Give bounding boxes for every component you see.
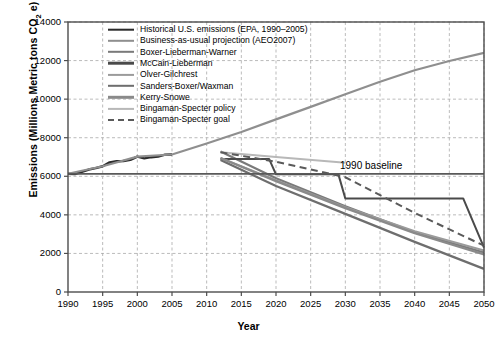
emissions-line-chart: [0, 0, 497, 340]
legend-label: Olver-Gilchrest: [140, 69, 197, 80]
y-tick-label: 10000: [10, 93, 61, 104]
legend-item: Business-as-usual projection (AEO2007): [108, 35, 295, 46]
y-tick-label: 0: [10, 286, 61, 297]
y-tick-label: 2000: [10, 247, 61, 258]
legend-item: McCain-Lieberman: [108, 58, 213, 69]
x-axis-title: Year: [0, 320, 497, 332]
y-tick-label: 4000: [10, 209, 61, 220]
series-line: [221, 158, 484, 251]
legend-label: Sanders-Boxer/Waxman: [140, 81, 233, 92]
x-tick-label: 2050: [464, 298, 497, 309]
y-axis-title-tail: e): [27, 2, 39, 15]
legend-swatch-icon: [108, 92, 134, 103]
legend-item: Bingaman-Specter policy: [108, 103, 236, 114]
series-line: [221, 159, 484, 248]
legend-item: Bingaman-Specter goal: [108, 114, 230, 125]
legend-label: Bingaman-Specter goal: [140, 114, 230, 125]
y-tick-label: 6000: [10, 170, 61, 181]
legend-item: Historical U.S. emissions (EPA, 1990–200…: [108, 24, 308, 35]
y-axis-title: Emissions (Millions Metric tons CO2 e): [27, 0, 42, 220]
y-tick-label: 14000: [10, 16, 61, 27]
legend-swatch-icon: [108, 114, 134, 125]
legend-label: Business-as-usual projection (AEO2007): [140, 35, 295, 46]
legend-swatch-icon: [108, 69, 134, 80]
legend-swatch-icon: [108, 24, 134, 35]
legend-label: Kerry-Snowe: [140, 92, 190, 103]
legend-label: McCain-Lieberman: [140, 58, 213, 69]
legend-item: Olver-Gilchrest: [108, 69, 197, 80]
legend-swatch-icon: [108, 103, 134, 114]
legend-swatch-icon: [108, 35, 134, 46]
chart-root: Emissions (Millions Metric tons CO2 e) Y…: [0, 0, 497, 340]
y-tick-label: 8000: [10, 132, 61, 143]
legend-swatch-icon: [108, 81, 134, 92]
y-tick-label: 12000: [10, 55, 61, 66]
legend-item: Sanders-Boxer/Waxman: [108, 81, 233, 92]
legend-label: Bingaman-Specter policy: [140, 103, 236, 114]
baseline-annotation: 1990 baseline: [340, 160, 402, 171]
legend-label: Historical U.S. emissions (EPA, 1990–200…: [140, 24, 308, 35]
legend-swatch-icon: [108, 47, 134, 58]
legend-item: Boxer-Lieberman-Warner: [108, 47, 237, 58]
legend-label: Boxer-Lieberman-Warner: [140, 47, 237, 58]
legend-item: Kerry-Snowe: [108, 92, 190, 103]
legend-swatch-icon: [108, 58, 134, 69]
